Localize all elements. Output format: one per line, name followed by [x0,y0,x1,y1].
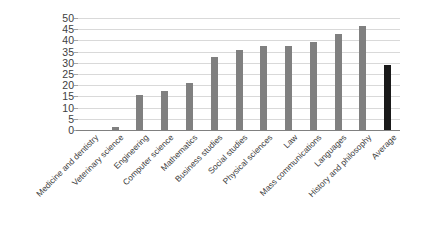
bar [136,95,143,130]
bar [359,26,366,130]
bar [236,50,243,130]
bars-container [78,18,400,130]
bar [161,91,168,130]
x-axis-tick-label-text: Average [370,133,398,161]
x-axis-line [76,130,400,131]
bar [186,83,193,130]
bar [211,57,218,130]
bar [384,65,391,130]
bar-chart: 50454035302520151050 Medicine and dentis… [0,0,425,230]
y-axis-tick-label: 50 [48,13,74,24]
y-axis-tick-label: 45 [48,24,74,35]
y-axis-tick-label: 15 [48,91,74,102]
bar [285,46,292,130]
bar [310,42,317,130]
x-axis-tick-label: Law [282,133,299,150]
y-axis-tick-label: 25 [48,69,74,80]
x-axis-tick-label-text: Law [282,133,299,150]
y-axis-tick-label: 30 [48,58,74,69]
bar [112,127,119,130]
y-axis-labels: 50454035302520151050 [44,0,74,230]
y-axis-tick-label: 10 [48,103,74,114]
y-axis-tick-label: 5 [48,114,74,125]
y-axis-tick-label: 35 [48,47,74,58]
y-axis-tick-label: 40 [48,35,74,46]
y-axis-tick-label: 0 [48,125,74,136]
x-axis-tick-label: Average [370,133,398,161]
y-axis-tick-label: 20 [48,80,74,91]
bar [335,34,342,130]
bar [260,46,267,130]
